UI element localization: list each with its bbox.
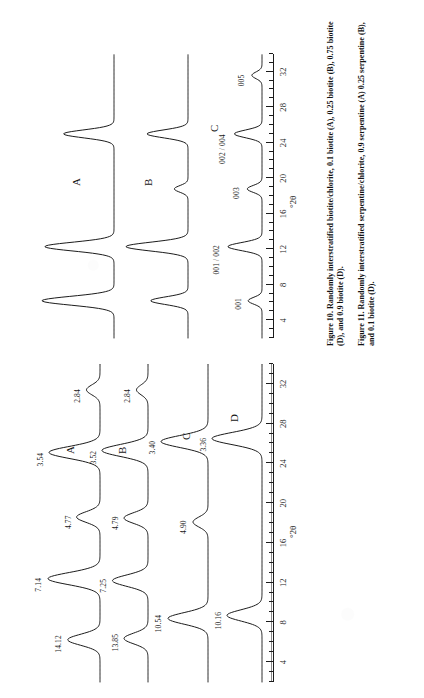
axis-tick-minor (269, 433, 273, 434)
axis-tick-minor (269, 302, 273, 303)
axis-tick-minor (269, 310, 273, 311)
axis-tick-minor (269, 328, 273, 329)
figure-11-axis-line (273, 364, 274, 682)
axis-tick-minor (269, 168, 273, 169)
figure-10-caption-text: Randomly interstratified biotite/chlorit… (326, 21, 345, 346)
axis-tick-minor (269, 97, 273, 98)
axis-tick-minor (269, 641, 273, 642)
axis-tick-minor (269, 151, 273, 152)
axis-tick-minor (269, 562, 273, 563)
figure-10-axis-line (273, 54, 274, 338)
axis-tick-label: 16 (278, 209, 288, 218)
axis-tick-minor (269, 482, 273, 483)
peak-label-d-3-52: 3.52 (89, 451, 98, 465)
axis-tick-label: 4 (278, 660, 288, 664)
axis-tick-minor (269, 337, 273, 338)
peak-label-001: 001 (234, 298, 243, 310)
axis-tick-major (266, 621, 273, 622)
peak-label-d-10-54: 10.54 (154, 615, 163, 633)
axis-tick-minor (269, 53, 273, 54)
figure-10-axis-title: °2θ (288, 196, 298, 208)
axis-tick-major (266, 502, 273, 503)
axis-tick-minor (269, 186, 273, 187)
axis-tick-minor (269, 89, 273, 90)
trace-d (212, 364, 262, 682)
peak-label-d-3-40: 3.40 (148, 441, 157, 455)
axis-tick-major (266, 106, 273, 107)
axis-tick-minor (269, 160, 273, 161)
axis-tick-minor (269, 592, 273, 593)
axis-tick-minor (269, 293, 273, 294)
axis-tick-label: 8 (278, 283, 288, 287)
axis-tick-minor (269, 611, 273, 612)
peak-label-d-4-79: 4.79 (111, 516, 120, 530)
axis-tick-major (266, 661, 273, 662)
axis-tick-minor (269, 363, 273, 364)
axis-tick-major (266, 423, 273, 424)
figure-11-axis-line-shadow (271, 364, 272, 682)
axis-tick-major (266, 462, 273, 463)
axis-tick-minor (269, 62, 273, 63)
axis-tick-label: 4 (278, 318, 288, 322)
axis-tick-minor (269, 492, 273, 493)
figure-11-caption-label: Figure 11. (357, 312, 366, 346)
axis-tick-major (266, 319, 273, 320)
figure-10-plot: 48121620242832 °2θ ABC 001001 / 00200300… (12, 46, 312, 346)
axis-tick-minor (269, 512, 273, 513)
axis-tick-minor (269, 204, 273, 205)
axis-tick-label: 24 (278, 459, 288, 468)
axis-tick-minor (269, 222, 273, 223)
axis-tick-minor (269, 413, 273, 414)
axis-tick-minor (269, 373, 273, 374)
peak-label-d-13-85: 13.85 (111, 634, 120, 652)
trace-a (42, 55, 114, 338)
axis-tick-major (266, 213, 273, 214)
trace-b (102, 364, 148, 682)
trace-label-b: B (142, 179, 154, 186)
figure-11-traces (12, 364, 274, 682)
axis-tick-label: 16 (278, 538, 288, 547)
peak-label-d-2-84: 2.84 (123, 389, 132, 403)
axis-tick-minor (269, 124, 273, 125)
axis-tick-label: 20 (278, 174, 288, 183)
axis-tick-label: 20 (278, 499, 288, 508)
figure-10-caption: Figure 10. Randomly interstratified biot… (326, 14, 346, 346)
figure-11-plot: 48121620242832 °2θ ABCD 14.127.144.773.5… (12, 358, 312, 690)
peak-label-d-7-14: 7.14 (34, 578, 43, 592)
axis-tick-minor (269, 472, 273, 473)
peak-label-003: 003 (232, 187, 241, 199)
trace-label-a: A (70, 178, 82, 186)
axis-tick-label: 32 (278, 379, 288, 388)
figure-10-caption-label: Figure 10. (326, 311, 335, 346)
peak-label-001-002: 001 / 002 (212, 245, 221, 275)
figure-11-axis-title: °2θ (288, 526, 298, 538)
trace-b (126, 55, 188, 338)
axis-tick-label: 12 (278, 578, 288, 587)
axis-tick-major (266, 248, 273, 249)
peak-label-002-004: 002 / 004 (218, 134, 227, 164)
axis-tick-major (266, 142, 273, 143)
figure-11-caption: Figure 11. Randomly interstratified serp… (357, 14, 377, 346)
figure-11-plot-area (12, 364, 274, 682)
axis-tick-minor (269, 80, 273, 81)
axis-tick-major (266, 383, 273, 384)
axis-tick-label: 28 (278, 419, 288, 428)
axis-tick-minor (269, 631, 273, 632)
axis-tick-label: 24 (278, 138, 288, 147)
axis-tick-minor (269, 443, 273, 444)
peak-label-d-3-54: 3.54 (36, 453, 45, 467)
axis-tick-major (266, 71, 273, 72)
axis-tick-minor (269, 671, 273, 672)
peak-label-d-7-25: 7.25 (99, 579, 108, 593)
axis-tick-label: 8 (278, 620, 288, 624)
axis-tick-major (266, 284, 273, 285)
peak-label-d-4-77: 4.77 (64, 515, 73, 529)
axis-tick-minor (269, 552, 273, 553)
axis-tick-minor (269, 532, 273, 533)
axis-tick-minor (269, 133, 273, 134)
axis-tick-major (266, 582, 273, 583)
axis-tick-minor (269, 572, 273, 573)
axis-tick-minor (269, 231, 273, 232)
axis-tick-minor (269, 115, 273, 116)
peak-label-d-2-84: 2.84 (73, 389, 82, 403)
